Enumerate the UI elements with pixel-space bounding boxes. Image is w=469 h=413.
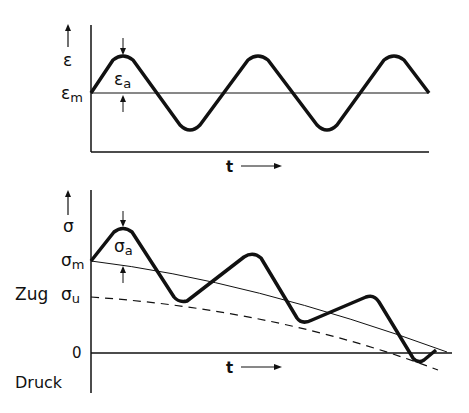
stress-time-arrow-icon <box>241 364 282 370</box>
stress-lower-label: σu <box>61 284 80 306</box>
stress-zero-label: 0 <box>72 344 82 362</box>
strain-chart: ε εm εa t <box>61 24 429 176</box>
tension-label: Zug <box>15 284 48 304</box>
stress-chart: σ σm σa σu 0 Zug Druck t <box>15 190 452 393</box>
stress-curve <box>91 229 436 362</box>
strain-up-arrow-icon <box>65 24 71 47</box>
stress-lower-curve <box>91 297 438 370</box>
compression-label: Druck <box>15 373 63 392</box>
strain-amplitude-label: εa <box>114 69 131 91</box>
fatigue-diagram: ε εm εa t σ σm <box>0 0 469 413</box>
strain-time-arrow-icon <box>241 163 282 169</box>
strain-y-label: ε <box>63 50 72 70</box>
stress-mean-label: σm <box>61 250 84 272</box>
strain-x-label: t <box>226 158 233 176</box>
strain-mean-label: εm <box>61 83 83 105</box>
stress-x-label: t <box>226 359 233 377</box>
stress-amplitude-label: σa <box>114 236 133 258</box>
stress-up-arrow-icon <box>65 190 71 215</box>
stress-y-label: σ <box>63 216 74 236</box>
